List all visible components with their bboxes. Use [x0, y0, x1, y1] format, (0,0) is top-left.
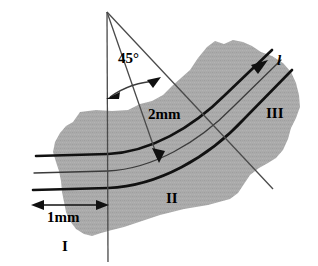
figure-canvas: 45° 2mm 1mm I II III l	[0, 0, 318, 266]
diagram-svg	[0, 0, 318, 266]
region-three-label: III	[266, 105, 284, 122]
region-one-label: I	[62, 238, 68, 255]
angle-arc-arrowhead-left	[106, 92, 120, 99]
dimension-1mm-arrowhead-left	[31, 200, 44, 210]
angle-label: 45°	[118, 50, 139, 67]
region-two-label: II	[166, 190, 178, 207]
thickness-2mm-label: 2mm	[148, 106, 181, 123]
thickness-1mm-label: 1mm	[47, 209, 80, 226]
ray-l-label: l	[277, 52, 281, 69]
angle-arc-arrowhead-right	[147, 77, 161, 88]
